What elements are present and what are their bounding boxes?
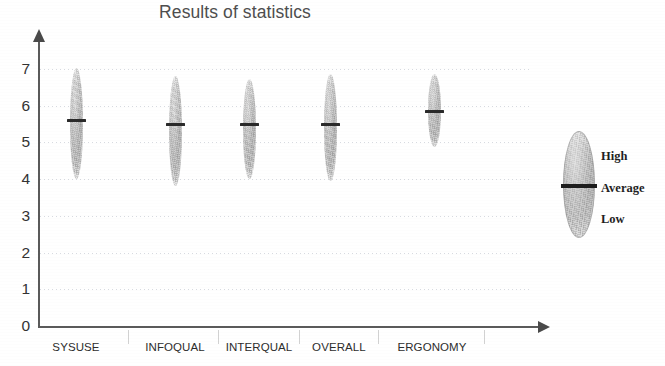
statistics-chart: Results of statistics 7 6 5 4 3 2 1 0 SY… (0, 0, 665, 366)
chart-title: Results of statistics (120, 2, 350, 23)
gridline-2 (40, 253, 530, 254)
y-axis-line (38, 40, 40, 328)
y-axis-arrow-icon (33, 29, 45, 42)
x-axis-separator-2 (218, 330, 219, 344)
violin-interqual (243, 79, 256, 179)
y-tick-6: 6 (12, 98, 30, 114)
x-tick-ergonomy: ERGONOMY (382, 341, 482, 353)
gridline-3 (40, 216, 530, 217)
legend-label-high: High (601, 150, 627, 163)
mean-line-infoqual (166, 123, 185, 126)
y-tick-4: 4 (12, 171, 30, 187)
mean-line-overall (321, 123, 340, 126)
violin-sysuse (70, 68, 83, 179)
legend-label-low: Low (601, 213, 625, 226)
violin-infoqual (169, 76, 182, 186)
x-axis-separator-1 (128, 330, 129, 344)
x-axis-arrow-icon (538, 321, 550, 333)
gridline-5 (40, 142, 530, 143)
x-axis-separator-4 (378, 330, 379, 344)
x-tick-overall: OVERALL (302, 341, 376, 353)
y-tick-1: 1 (12, 281, 30, 297)
x-tick-infoqual: INFOQUAL (133, 341, 217, 353)
y-tick-3: 3 (12, 208, 30, 224)
gridline-7 (40, 69, 530, 70)
violin-overall (324, 74, 337, 181)
legend-mean-line-icon (561, 184, 597, 188)
y-tick-0: 0 (12, 318, 30, 334)
gridline-6 (40, 106, 530, 107)
x-tick-interqual: INTERQUAL (220, 341, 298, 353)
x-axis-separator-3 (299, 330, 300, 344)
gridline-1 (40, 289, 530, 290)
mean-line-interqual (240, 123, 259, 126)
mean-line-sysuse (67, 119, 86, 122)
legend-label-average: Average (601, 182, 645, 195)
x-axis-line (38, 326, 540, 328)
x-tick-sysuse: SYSUSE (36, 341, 116, 353)
y-tick-2: 2 (12, 245, 30, 261)
x-axis-separator-5 (484, 330, 485, 344)
y-tick-5: 5 (12, 134, 30, 150)
gridline-4 (40, 179, 530, 180)
y-tick-7: 7 (12, 61, 30, 77)
mean-line-ergonomy (425, 110, 444, 113)
